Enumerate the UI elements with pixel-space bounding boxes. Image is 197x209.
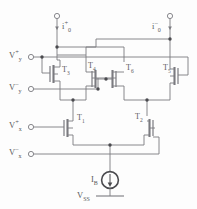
node-bias-tail — [108, 143, 111, 146]
terminal-vy-neg-circle — [28, 86, 33, 91]
node-vy-neg — [96, 87, 99, 90]
terminal-vx-neg-circle — [28, 151, 33, 156]
label-transistor-t1: T1 — [77, 114, 85, 122]
node-vy-pos — [40, 55, 43, 58]
circuit-diagram: i+0 i–0 V+y V–y V+x V–x T3 T4 T6 T5 T1 T… — [0, 0, 197, 209]
terminal-vx-pos-circle — [28, 124, 33, 129]
label-io-pos: i+0 — [62, 22, 71, 31]
label-transistor-t3: T3 — [62, 66, 70, 74]
circuit-schematic-svg — [0, 0, 197, 209]
arrow-io-neg — [168, 27, 172, 30]
label-supply-vss: VSS — [77, 191, 90, 200]
node-io-pos — [55, 45, 58, 48]
label-transistor-t2: T2 — [135, 113, 143, 121]
label-transistor-t5: T5 — [163, 64, 171, 72]
node-t2-drain — [145, 98, 148, 101]
node-t1-drain — [71, 98, 74, 101]
label-vx-pos: V+x — [9, 121, 22, 130]
label-vy-pos: V+y — [9, 51, 22, 60]
terminal-vy-pos-circle — [28, 54, 33, 59]
terminal-io-pos-circle — [54, 13, 59, 18]
node-io-neg — [168, 37, 171, 40]
label-transistor-t6: T6 — [126, 64, 134, 72]
wires-group — [28, 13, 188, 196]
label-transistor-t4: T4 — [88, 62, 96, 70]
label-current-source-ib: IB — [91, 175, 98, 184]
arrow-io-pos — [55, 27, 59, 30]
label-vy-neg: V–y — [9, 83, 21, 92]
label-vx-neg: V–x — [9, 148, 21, 157]
label-io-neg: i–0 — [152, 22, 161, 31]
terminal-io-neg-circle — [167, 13, 172, 18]
node-t4-t6-body — [104, 77, 107, 80]
